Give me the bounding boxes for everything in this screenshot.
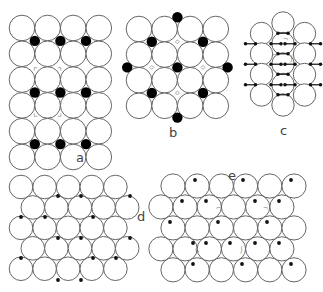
adsorbate-dot (277, 241, 281, 245)
label-b: b (169, 125, 177, 140)
substrate-atom (60, 67, 86, 93)
substrate-atom (60, 15, 86, 41)
substrate-atom (35, 41, 61, 67)
unit-cell-corner (34, 113, 37, 116)
adsorbate-dot (283, 42, 287, 46)
adsorbate-dot (222, 62, 232, 72)
adsorbate-dot (204, 241, 208, 245)
adsorbate-dot (128, 236, 132, 240)
substrate-atom (203, 93, 229, 119)
adsorbate-dot (293, 42, 297, 46)
substrate-atom (115, 237, 139, 261)
label-a: a (76, 150, 84, 165)
adsorbate-dot (240, 262, 244, 266)
substrate-atom (35, 118, 61, 144)
adsorbate-dot (30, 87, 40, 97)
adsorbate-dot (216, 220, 220, 224)
adsorbate-dot (19, 215, 23, 219)
substrate-atom (234, 258, 258, 282)
adsorbate-dot (283, 83, 287, 87)
adsorbate-dot (244, 42, 248, 46)
substrate-atom (86, 15, 112, 41)
panel-d (9, 175, 139, 282)
adsorbate-dot (283, 62, 287, 66)
adsorbate-dot (56, 278, 60, 282)
panel-b (122, 12, 233, 123)
adsorbate-dot (286, 72, 290, 76)
substrate-atom (9, 257, 33, 281)
substrate-atom (209, 216, 233, 240)
adsorbate-dot (56, 236, 60, 240)
adsorbate-dot (309, 62, 313, 66)
substrate-atom (9, 175, 33, 199)
unit-cell-mark (175, 91, 179, 95)
substrate-atom (56, 216, 80, 240)
substrate-atom (115, 196, 139, 220)
adsorbate-dot (276, 72, 280, 76)
adsorbate-dot (128, 194, 132, 198)
substrate-atom (209, 258, 233, 282)
unit-cell-mark: ¬ (263, 204, 268, 211)
adsorbate-dot (269, 62, 273, 66)
substrate-atom (68, 196, 92, 220)
substrate-atom (86, 67, 112, 93)
unit-cell-mark: ⌐ (272, 51, 277, 58)
substrate-atom (270, 195, 294, 219)
substrate-atom (9, 216, 33, 240)
adsorbate-dot (55, 36, 65, 46)
adsorbate-dot (191, 241, 195, 245)
adsorbate-dot (279, 42, 283, 46)
unit-cell-mark: ∟ (195, 246, 200, 253)
substrate-atom (92, 196, 116, 220)
substrate-atom (9, 93, 35, 119)
substrate-atom (250, 63, 272, 85)
adsorbate-dot (289, 178, 293, 182)
substrate-atom (86, 118, 112, 144)
substrate-atom (35, 15, 61, 41)
adsorbate-dot (81, 87, 91, 97)
adsorbate-dot (147, 88, 157, 98)
unit-cell-mark: ¬ (283, 35, 288, 42)
substrate-atom (270, 237, 294, 261)
substrate-atom (258, 258, 282, 282)
adsorbate-dot (276, 31, 280, 35)
substrate-atom (177, 42, 203, 68)
substrate-atom (104, 216, 128, 240)
substrate-atom (80, 216, 104, 240)
adsorbate-dot (277, 199, 281, 203)
substrate-atom (173, 237, 197, 261)
label-d: d (137, 209, 145, 224)
adsorbate-dot (122, 62, 132, 72)
adsorbate-dot (254, 42, 258, 46)
unit-cell-mark (175, 40, 179, 44)
unit-cell-corner (58, 68, 61, 71)
substrate-atom (35, 67, 61, 93)
substrate-atom (33, 257, 57, 281)
substrate-atom (35, 93, 61, 119)
substrate-atom (250, 22, 272, 44)
substrate-atom (152, 42, 178, 68)
adsorbate-dot (91, 215, 95, 219)
substrate-atom (60, 93, 86, 119)
substrate-atom (126, 16, 152, 42)
adsorbate-dot (81, 36, 91, 46)
substrate-atom (203, 16, 229, 42)
adsorbate-dot (193, 178, 197, 182)
adsorbate-dot (244, 83, 248, 87)
substrate-atom (104, 175, 128, 199)
adsorbate-dot (19, 256, 23, 260)
adsorbate-dot (241, 178, 245, 182)
label-e: e (228, 168, 236, 183)
adsorbate-dot (309, 83, 313, 87)
substrate-atom (221, 195, 245, 219)
substrate-atom (9, 144, 35, 170)
substrate-atom (126, 93, 152, 119)
figure-canvas: ¬⌐⌡⊢ ⌐¬∟⌡ a b c d e (0, 0, 323, 292)
substrate-atom (246, 237, 270, 261)
substrate-atom (9, 15, 35, 41)
substrate-atom (250, 84, 272, 106)
adsorbate-dot (293, 83, 297, 87)
adsorbate-dot (269, 83, 273, 87)
substrate-atom (104, 257, 128, 281)
substrate-atom (177, 67, 203, 93)
